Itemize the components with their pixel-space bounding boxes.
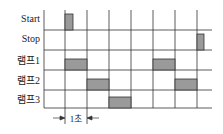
pulses bbox=[65, 14, 204, 108]
dimension-label: 1초 bbox=[70, 114, 83, 124]
lamp1-pulse-1 bbox=[65, 59, 87, 70]
stop-pulse bbox=[197, 34, 204, 50]
lamp2-pulse-1 bbox=[87, 79, 109, 90]
lamp2-pulse-2 bbox=[175, 79, 197, 90]
row-label-start: Start bbox=[21, 13, 40, 24]
lamp3-pulse-1 bbox=[109, 97, 131, 108]
row-label-lamp1: 램프1 bbox=[17, 55, 40, 66]
timing-diagram: Start Stop 램프1 램프2 램프3 1초 bbox=[0, 0, 223, 134]
start-pulse bbox=[65, 14, 73, 30]
row-label-lamp3: 램프3 bbox=[17, 94, 40, 105]
row-labels: Start Stop 램프1 램프2 램프3 bbox=[17, 13, 40, 105]
row-label-lamp2: 램프2 bbox=[17, 75, 40, 86]
lamp1-pulse-2 bbox=[153, 59, 175, 70]
row-label-stop: Stop bbox=[22, 33, 40, 44]
